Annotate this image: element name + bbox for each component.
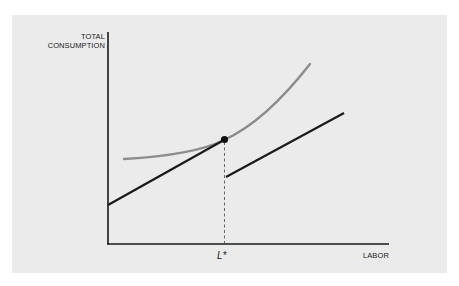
y-axis-label-line2: CONSUMPTION	[48, 41, 105, 50]
y-axis-label: TOTAL CONSUMPTION	[48, 32, 105, 50]
l-star-label: L*	[217, 250, 226, 261]
y-axis-label-line1: TOTAL	[48, 32, 105, 41]
x-axis-label: LABOR	[363, 251, 389, 260]
budget-line-left	[108, 140, 224, 205]
tangency-point	[221, 136, 228, 143]
budget-line-right	[226, 113, 344, 177]
